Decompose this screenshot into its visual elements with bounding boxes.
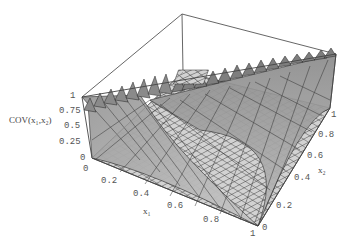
z-tick: 1 xyxy=(70,91,75,101)
x1-tick: 0.6 xyxy=(167,201,183,211)
x1-tick: 0.2 xyxy=(101,176,117,186)
surface-back-patch xyxy=(173,70,208,84)
x2-tick: 0.8 xyxy=(318,130,334,140)
z-tick: 0.5 xyxy=(64,121,80,131)
x1-axis-label: x₁ xyxy=(143,206,151,216)
x1-tick: 0.8 xyxy=(203,215,219,225)
x2-tick: 0.4 xyxy=(294,173,310,183)
z-tick: 0 xyxy=(80,153,85,163)
x1-tick: 1 xyxy=(250,229,255,239)
x2-tick: 1 xyxy=(331,110,336,120)
z-tick: 0.25 xyxy=(59,137,81,147)
x2-tick: 0.2 xyxy=(276,201,292,211)
x1-tick: 0 xyxy=(83,164,88,174)
x2-tick: 0 xyxy=(262,223,267,233)
z-tick: 0.75 xyxy=(59,106,81,116)
x2-tick: 0.6 xyxy=(307,151,323,161)
z-axis-label: COV(x₁,x₂) xyxy=(9,115,52,125)
x1-tick: 0.4 xyxy=(133,189,149,199)
z-axis: 1 0.75 0.5 0.25 0 COV(x₁,x₂) xyxy=(9,91,85,163)
surface-plot-3d: 1 0.75 0.5 0.25 0 COV(x₁,x₂) 0 0.2 0.4 0… xyxy=(0,0,345,249)
x2-axis-label: x₂ xyxy=(318,165,326,175)
